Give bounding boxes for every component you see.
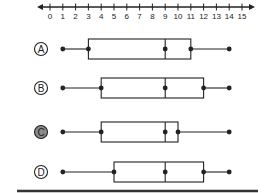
tick-label: 12	[199, 12, 208, 21]
number-line: 0123456789101112131415	[37, 4, 255, 22]
q3-point	[201, 170, 206, 175]
max-point	[227, 170, 232, 175]
tick-label: 2	[73, 12, 78, 21]
max-point	[227, 47, 232, 52]
q3-point	[201, 86, 206, 91]
tick-label: 4	[99, 12, 104, 21]
max-point	[227, 130, 232, 135]
median-point	[163, 130, 168, 135]
option-a[interactable]: A	[35, 39, 232, 59]
tick-label: 10	[174, 12, 183, 21]
left-arrow-icon	[37, 4, 43, 10]
median-point	[163, 47, 168, 52]
right-arrow-icon	[249, 4, 255, 10]
tick-label: 3	[86, 12, 91, 21]
iqr-box	[114, 162, 204, 182]
q1-point	[99, 130, 104, 135]
min-point	[60, 47, 65, 52]
tick-label: 0	[48, 12, 53, 21]
tick-label: 5	[112, 12, 117, 21]
tick-label: 8	[150, 12, 155, 21]
max-point	[227, 86, 232, 91]
box-plot-figure: 0123456789101112131415 ABCD	[0, 0, 264, 193]
option-d[interactable]: D	[35, 162, 232, 182]
q1-point	[112, 170, 117, 175]
iqr-box	[88, 39, 190, 59]
tick-label: 9	[163, 12, 168, 21]
min-point	[60, 86, 65, 91]
q1-point	[99, 86, 104, 91]
median-point	[163, 170, 168, 175]
tick-label: 15	[238, 12, 247, 21]
q1-point	[86, 47, 91, 52]
tick-label: 7	[137, 12, 142, 21]
median-point	[163, 86, 168, 91]
option-letter: A	[38, 44, 45, 55]
answer-options: ABCD	[35, 39, 232, 182]
option-letter: B	[38, 83, 45, 94]
option-letter: C	[37, 127, 44, 138]
min-point	[60, 130, 65, 135]
tick-label: 13	[212, 12, 221, 21]
min-point	[60, 170, 65, 175]
q3-point	[188, 47, 193, 52]
tick-label: 14	[225, 12, 234, 21]
tick-label: 1	[61, 12, 66, 21]
option-c[interactable]: C	[35, 122, 232, 142]
iqr-box	[101, 78, 203, 98]
tick-label: 11	[187, 12, 196, 21]
option-b[interactable]: B	[35, 78, 232, 98]
q3-point	[176, 130, 181, 135]
tick-label: 6	[125, 12, 130, 21]
option-letter: D	[37, 167, 44, 178]
